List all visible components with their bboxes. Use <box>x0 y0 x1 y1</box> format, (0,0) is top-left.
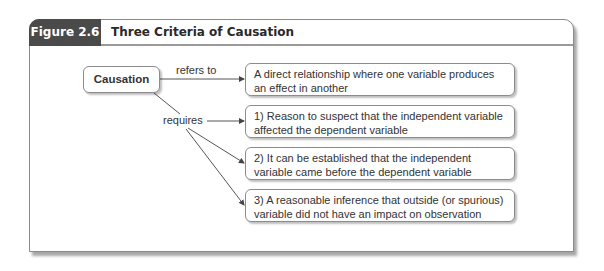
causation-node: Causation <box>83 66 160 93</box>
refers-to-label: refers to <box>176 64 216 76</box>
requires-label: requires <box>163 114 203 126</box>
criterion-node-2: 2) It can be established that the indepe… <box>245 147 515 180</box>
criterion-node-1: 1) Reason to suspect that the independen… <box>245 105 515 138</box>
criterion-node-3: 3) A reasonable inference that outside (… <box>245 189 515 222</box>
definition-node: A direct relationship where one variable… <box>245 63 515 96</box>
